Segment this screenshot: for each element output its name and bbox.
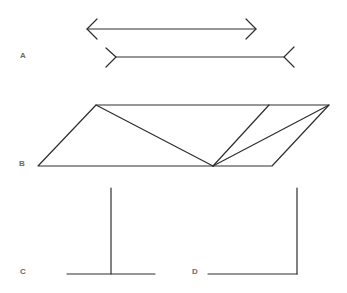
- panel-a-muller-lyer: [87, 19, 294, 67]
- panel-label-c: C: [20, 268, 26, 276]
- panel-label-d: D: [192, 268, 198, 276]
- panel-label-b: B: [19, 160, 25, 168]
- panel-b-right-diagonal: [213, 105, 329, 166]
- illusion-drawing: [0, 0, 347, 293]
- panel-a-bottom-left-fins: [106, 48, 116, 67]
- panel-b-inner-side: [213, 105, 269, 166]
- panel-b-outer-parallelogram: [38, 105, 329, 166]
- panel-c-inverted-t: [67, 188, 155, 274]
- panel-b-sander-parallelogram: [38, 105, 329, 166]
- panel-d-l-shape: [208, 188, 297, 274]
- panel-label-a: A: [20, 52, 26, 60]
- illusion-figure: A B C D: [0, 0, 347, 293]
- panel-b-left-diagonal: [96, 105, 213, 166]
- panel-a-bottom-right-fins: [284, 47, 294, 67]
